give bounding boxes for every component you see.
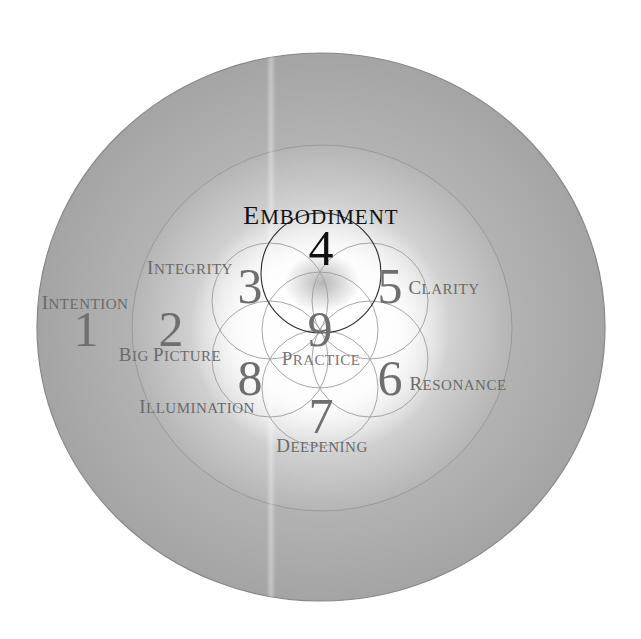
concentric-diagram: 1 2 3 4 5 6 7 8 9 INTENTION BIG PICTURE … (0, 0, 641, 639)
stage-label-illumination: ILLUMINATION (139, 396, 255, 417)
stage-number-3: 3 (238, 258, 263, 314)
stage-number-8: 8 (238, 350, 263, 406)
stage-number-6: 6 (378, 350, 403, 406)
stage-number-7: 7 (309, 388, 334, 444)
stage-number-9: 9 (308, 301, 333, 357)
stage-label-clarity: CLARITY (408, 277, 479, 298)
stage-number-5: 5 (378, 258, 403, 314)
stage-label-intention: INTENTION (42, 292, 129, 313)
stage-label-practice: PRACTICE (282, 348, 361, 369)
stage-label-embodiment: EMBODIMENT (243, 201, 398, 230)
stage-label-big-picture: BIG PICTURE (119, 344, 222, 365)
stage-label-deepening: DEEPENING (276, 435, 368, 456)
stage-label-integrity: INTEGRITY (147, 257, 233, 278)
stage-label-resonance: RESONANCE (409, 373, 506, 394)
